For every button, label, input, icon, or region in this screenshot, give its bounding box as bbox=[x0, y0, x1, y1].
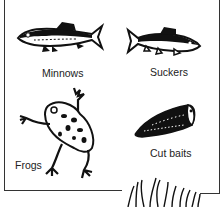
grass-icon bbox=[124, 176, 204, 207]
frame-bottom-border bbox=[4, 190, 122, 191]
minnows-label: Minnows bbox=[42, 67, 83, 79]
cut-bait-icon bbox=[132, 103, 198, 139]
minnow-fish-icon bbox=[16, 18, 104, 56]
sucker-fish-icon bbox=[126, 24, 202, 56]
suckers-label: Suckers bbox=[150, 66, 188, 78]
frame-left-border bbox=[4, 0, 5, 191]
cut-baits-label: Cut baits bbox=[150, 147, 191, 159]
frogs-label: Frogs bbox=[15, 159, 42, 171]
frame-right-border bbox=[219, 0, 220, 194]
